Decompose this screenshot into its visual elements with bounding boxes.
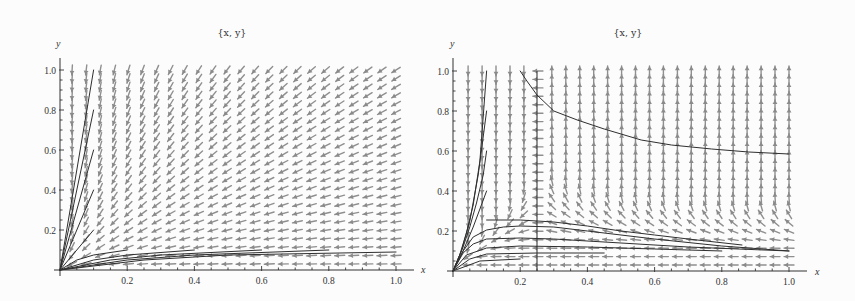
y-tick-label: 0.2 xyxy=(44,226,56,236)
vector-arrow xyxy=(224,100,231,107)
vector-arrow xyxy=(238,100,245,107)
vector-arrow xyxy=(126,150,131,159)
vector-arrow xyxy=(480,66,485,76)
vector-arrow xyxy=(772,210,777,219)
vector-arrow xyxy=(548,212,557,217)
vector-arrow xyxy=(210,100,216,108)
vector-arrow xyxy=(153,202,161,208)
vector-arrow xyxy=(168,83,173,92)
vector-arrow xyxy=(714,263,724,268)
vector-arrow xyxy=(112,175,117,184)
vector-arrow xyxy=(195,134,202,141)
vector-arrow xyxy=(139,193,146,200)
vector-arrow xyxy=(757,220,765,226)
vector-arrow xyxy=(377,152,386,157)
vector-arrow xyxy=(224,109,231,116)
vector-arrow xyxy=(180,220,189,224)
vector-arrow xyxy=(138,219,146,224)
vector-arrow xyxy=(686,263,696,268)
vector-arrow xyxy=(181,151,188,158)
vector-arrow xyxy=(196,125,203,133)
vector-arrow xyxy=(294,75,302,82)
vector-arrow xyxy=(378,110,387,115)
vector-arrow xyxy=(321,178,330,183)
vector-arrow xyxy=(293,118,301,124)
vector-arrow xyxy=(251,135,259,141)
vector-arrow xyxy=(492,237,501,242)
panel-left: {x, y} y x 0.20.40.60.81.00.20.40.60.81.… xyxy=(44,27,426,286)
vector-arrow xyxy=(533,111,543,116)
vector-arrow xyxy=(110,245,119,250)
vector-arrow xyxy=(166,245,176,250)
vector-arrow xyxy=(603,254,613,259)
vector-arrow xyxy=(294,84,302,91)
vector-arrow xyxy=(279,143,288,148)
vector-arrow xyxy=(770,263,780,268)
x-tick-label: 0.2 xyxy=(121,276,133,286)
vector-arrow xyxy=(126,141,131,150)
vector-arrow xyxy=(392,127,401,132)
vector-arrow xyxy=(533,102,543,107)
vector-arrow xyxy=(349,178,359,183)
vector-arrow xyxy=(251,177,260,182)
vector-arrow xyxy=(364,110,373,115)
vector-arrow xyxy=(251,203,260,208)
vector-arrow xyxy=(391,203,401,208)
vector-arrow xyxy=(731,210,736,218)
vector-arrow xyxy=(182,91,188,99)
vector-arrow xyxy=(251,195,260,199)
vector-arrow xyxy=(335,127,344,132)
vector-arrow xyxy=(335,110,344,115)
vector-arrow xyxy=(591,66,596,76)
y-tick-label: 0.6 xyxy=(44,146,56,156)
vector-arrow xyxy=(223,177,232,182)
vector-arrow xyxy=(561,263,571,268)
vector-arrow xyxy=(520,211,527,218)
vector-arrow xyxy=(180,228,190,233)
vector-arrow xyxy=(675,66,680,76)
vector-arrow xyxy=(378,76,386,82)
vector-arrow xyxy=(307,161,316,166)
vector-arrow xyxy=(278,228,288,233)
vector-arrow xyxy=(349,236,359,241)
vector-arrow xyxy=(154,116,159,125)
vector-arrow xyxy=(209,134,216,141)
vector-arrow xyxy=(293,195,303,200)
vector-arrow xyxy=(506,229,515,234)
vector-arrow xyxy=(349,211,359,216)
vector-arrow xyxy=(140,167,146,175)
vector-arrow xyxy=(279,169,288,174)
vector-arrow xyxy=(335,236,345,241)
vector-arrow xyxy=(209,186,218,191)
vector-arrow xyxy=(237,134,245,140)
vector-arrow xyxy=(210,66,216,74)
vector-arrow xyxy=(391,245,401,250)
vector-arrow xyxy=(307,236,317,241)
vector-arrow xyxy=(307,109,315,115)
vector-arrow xyxy=(154,133,160,141)
vector-arrow xyxy=(321,135,330,140)
vector-arrow xyxy=(321,127,330,132)
vector-arrow xyxy=(717,201,722,211)
vector-arrow xyxy=(265,169,274,174)
vector-arrow xyxy=(279,220,289,225)
vector-arrow xyxy=(786,210,791,219)
vector-arrow xyxy=(728,254,738,259)
vector-arrow xyxy=(196,66,201,74)
vector-arrow xyxy=(196,83,202,91)
vector-arrow xyxy=(335,194,345,199)
vector-arrow xyxy=(321,236,331,241)
vector-arrow xyxy=(154,65,159,74)
vector-arrow xyxy=(590,211,598,218)
vector-arrow xyxy=(140,159,146,167)
vector-arrow xyxy=(266,92,273,99)
vector-arrow xyxy=(307,126,316,131)
vector-arrow xyxy=(321,211,331,216)
vector-arrow xyxy=(377,203,387,208)
vector-arrow xyxy=(675,201,680,210)
vector-arrow xyxy=(236,228,246,233)
vector-arrow xyxy=(392,76,400,81)
vector-arrow xyxy=(617,254,627,259)
vector-arrow xyxy=(363,194,373,199)
vector-arrow xyxy=(110,236,119,241)
